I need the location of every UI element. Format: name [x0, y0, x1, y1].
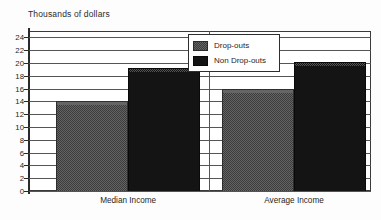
y-axis-tick-label: 24: [2, 33, 24, 42]
y-axis-tick-label: 8: [2, 135, 24, 144]
y-axis-tick-label: 12: [2, 110, 24, 119]
y-axis-tick-label: 6: [2, 148, 24, 157]
bar-non-dropouts: [294, 62, 366, 191]
y-axis-tick: [24, 165, 29, 166]
y-axis-tick-label: 20: [2, 59, 24, 68]
y-axis-tick: [24, 89, 29, 90]
legend-label-non-dropouts: Non Drop-outs: [214, 56, 266, 65]
y-axis-tick: [24, 63, 29, 64]
y-axis-tick: [24, 114, 29, 115]
legend-label-dropouts: Drop-outs: [214, 41, 249, 50]
bar-top-edge: [223, 90, 293, 93]
y-axis-tick-label: 16: [2, 84, 24, 93]
gridline: [29, 191, 371, 192]
chart-legend: Drop-outs Non Drop-outs: [188, 34, 280, 72]
y-axis-tick-label: 2: [2, 174, 24, 183]
y-axis-tick-label: 10: [2, 123, 24, 132]
y-axis-tick: [24, 37, 29, 38]
y-axis-tick: [24, 127, 29, 128]
x-axis-category-label: Average Income: [264, 196, 323, 205]
y-axis-tick: [24, 191, 29, 192]
y-axis-tick-label: 4: [2, 161, 24, 170]
bar-non-dropouts: [128, 68, 200, 191]
legend-swatch-non-dropouts: [193, 56, 208, 66]
bar-top-edge: [57, 102, 127, 105]
bar-chart: Thousands of dollars 0246810121416182022…: [0, 0, 381, 220]
y-axis-tick: [24, 178, 29, 179]
y-axis-tick: [24, 101, 29, 102]
bar-dropouts: [222, 89, 294, 191]
y-axis-tick-label: 18: [2, 71, 24, 80]
y-axis-tick-label: 0: [2, 187, 24, 196]
y-axis-tick: [24, 50, 29, 51]
legend-swatch-dropouts: [193, 41, 208, 51]
y-axis-tick-label: 14: [2, 97, 24, 106]
y-axis-tick: [24, 140, 29, 141]
bar-top-edge: [295, 63, 365, 66]
y-axis-title: Thousands of dollars: [28, 9, 110, 19]
y-axis-tick: [24, 76, 29, 77]
legend-item-non-dropouts: Non Drop-outs: [193, 53, 275, 68]
y-axis-labels: 024681012141618202224: [0, 0, 24, 220]
y-axis-tick: [24, 153, 29, 154]
y-axis-tick-label: 22: [2, 46, 24, 55]
x-axis-category-label: Median Income: [100, 196, 156, 205]
legend-item-dropouts: Drop-outs: [193, 38, 275, 53]
bar-dropouts: [56, 101, 128, 191]
